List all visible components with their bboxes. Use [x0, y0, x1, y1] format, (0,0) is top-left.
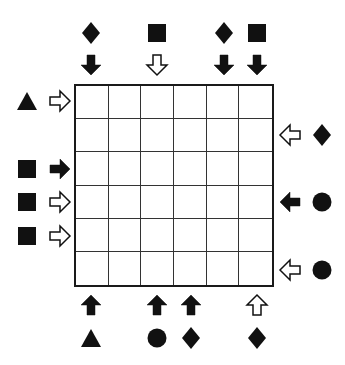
grid-cell-r4-c5[interactable] [207, 186, 240, 219]
grid-cell-r5-c2[interactable] [109, 219, 142, 252]
diamond-icon [245, 326, 269, 350]
grid-cell-r2-c1[interactable] [76, 119, 109, 152]
grid-cell-r3-c5[interactable] [207, 152, 240, 185]
grid-cell-r6-c2[interactable] [109, 252, 142, 285]
arrow-left-white-icon [278, 258, 302, 282]
puzzle-board [0, 0, 345, 365]
grid-cell-r5-c1[interactable] [76, 219, 109, 252]
grid-cell-r1-c1[interactable] [76, 86, 109, 119]
grid-cell-r5-c5[interactable] [207, 219, 240, 252]
triangle-icon [79, 326, 103, 350]
grid-cell-r3-c1[interactable] [76, 152, 109, 185]
grid-cell-r2-c4[interactable] [174, 119, 207, 152]
triangle-icon [15, 89, 39, 113]
grid-cell-r6-c5[interactable] [207, 252, 240, 285]
diamond-icon [179, 326, 203, 350]
grid-cell-r4-c1[interactable] [76, 186, 109, 219]
square-icon [145, 21, 169, 45]
square-icon [15, 190, 39, 214]
arrow-up-black-icon [179, 293, 203, 317]
grid-cell-r4-c4[interactable] [174, 186, 207, 219]
grid-cell-r4-c6[interactable] [239, 186, 272, 219]
circle-icon [310, 190, 334, 214]
arrow-down-black-icon [245, 53, 269, 77]
grid-cell-r6-c1[interactable] [76, 252, 109, 285]
arrow-right-black-icon [48, 157, 72, 181]
grid-cell-r5-c6[interactable] [239, 219, 272, 252]
grid-cell-r2-c6[interactable] [239, 119, 272, 152]
arrow-down-black-icon [212, 53, 236, 77]
grid-cell-r6-c6[interactable] [239, 252, 272, 285]
grid-cell-r2-c5[interactable] [207, 119, 240, 152]
arrow-left-white-icon [278, 123, 302, 147]
circle-icon [310, 258, 334, 282]
grid-cell-r4-c2[interactable] [109, 186, 142, 219]
arrow-down-black-icon [79, 53, 103, 77]
arrow-right-white-icon [48, 190, 72, 214]
arrow-down-white-icon [145, 53, 169, 77]
grid-cell-r3-c6[interactable] [239, 152, 272, 185]
arrow-up-white-icon [245, 293, 269, 317]
grid-cell-r1-c5[interactable] [207, 86, 240, 119]
grid-cell-r2-c3[interactable] [141, 119, 174, 152]
grid-cell-r1-c2[interactable] [109, 86, 142, 119]
grid-cell-r3-c2[interactable] [109, 152, 142, 185]
diamond-icon [212, 21, 236, 45]
square-icon [15, 157, 39, 181]
square-icon [245, 21, 269, 45]
diamond-icon [310, 123, 334, 147]
diamond-icon [79, 21, 103, 45]
grid-cell-r3-c3[interactable] [141, 152, 174, 185]
grid-cell-r6-c4[interactable] [174, 252, 207, 285]
grid-cell-r4-c3[interactable] [141, 186, 174, 219]
square-icon [15, 224, 39, 248]
grid-cell-r1-c3[interactable] [141, 86, 174, 119]
arrow-right-white-icon [48, 89, 72, 113]
arrow-up-black-icon [145, 293, 169, 317]
arrow-right-white-icon [48, 224, 72, 248]
grid-cell-r5-c4[interactable] [174, 219, 207, 252]
circle-icon [145, 326, 169, 350]
arrow-left-black-icon [278, 190, 302, 214]
puzzle-grid [74, 84, 274, 287]
grid-cell-r6-c3[interactable] [141, 252, 174, 285]
grid-cell-r3-c4[interactable] [174, 152, 207, 185]
grid-cell-r1-c6[interactable] [239, 86, 272, 119]
grid-cell-r5-c3[interactable] [141, 219, 174, 252]
arrow-up-black-icon [79, 293, 103, 317]
grid-cell-r2-c2[interactable] [109, 119, 142, 152]
grid-cell-r1-c4[interactable] [174, 86, 207, 119]
